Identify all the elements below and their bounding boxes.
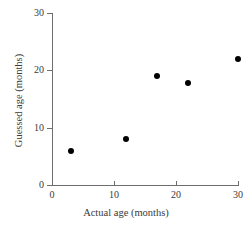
y-tick-30 <box>47 13 52 14</box>
data-point <box>235 56 241 62</box>
x-tick-label-10: 10 <box>102 190 126 200</box>
x-tick-label-30: 30 <box>226 190 250 200</box>
y-tick-label-10: 10 <box>20 123 44 133</box>
x-tick-30 <box>238 181 239 186</box>
scatter-plot-figure: 0 10 20 30 0 10 20 30 Actual age (months… <box>0 0 252 230</box>
x-tick-label-0: 0 <box>40 190 64 200</box>
y-tick-label-20: 20 <box>20 65 44 75</box>
y-tick-20 <box>47 70 52 71</box>
y-axis-title: Guessed age (months) <box>13 16 24 186</box>
y-tick-10 <box>47 128 52 129</box>
y-axis-line <box>52 13 53 186</box>
data-point <box>123 136 129 142</box>
x-tick-label-20: 20 <box>164 190 188 200</box>
data-point <box>68 148 74 154</box>
y-tick-label-0: 0 <box>20 180 44 190</box>
data-point <box>185 80 191 86</box>
data-point <box>154 73 160 79</box>
x-axis-line <box>52 185 239 186</box>
x-tick-20 <box>176 181 177 186</box>
x-axis-title: Actual age (months) <box>0 207 252 218</box>
x-tick-0 <box>52 181 53 186</box>
x-tick-10 <box>114 181 115 186</box>
y-tick-label-30: 30 <box>20 8 44 18</box>
